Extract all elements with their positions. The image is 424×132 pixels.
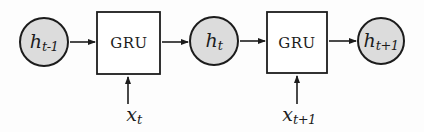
h-t-subscript: t bbox=[218, 38, 223, 53]
gru-cell-2-label: GRU bbox=[278, 36, 315, 51]
h-prev-symbol: h bbox=[30, 30, 42, 52]
x-next-symbol: x bbox=[282, 103, 293, 125]
x-t-symbol: x bbox=[126, 103, 137, 125]
h-next-symbol: h bbox=[363, 29, 375, 51]
gru-unrolled-diagram: ht-1 ht ht+1 GRU GRU xt xt+1 bbox=[0, 0, 424, 132]
h-t-symbol: h bbox=[206, 29, 218, 51]
input-xt-label: xt bbox=[126, 105, 141, 126]
x-t-subscript: t bbox=[137, 112, 142, 127]
gru-cell-1-label: GRU bbox=[110, 36, 147, 51]
h-next-subscript: t+1 bbox=[376, 38, 399, 53]
hidden-state-t-label: ht bbox=[206, 31, 223, 52]
diagram-canvas bbox=[0, 0, 424, 132]
hidden-state-prev-label: ht-1 bbox=[30, 32, 59, 53]
hidden-state-next-label: ht+1 bbox=[363, 31, 398, 52]
input-xnext-label: xt+1 bbox=[282, 105, 316, 126]
h-prev-subscript: t-1 bbox=[42, 39, 58, 54]
x-next-subscript: t+1 bbox=[293, 112, 316, 127]
